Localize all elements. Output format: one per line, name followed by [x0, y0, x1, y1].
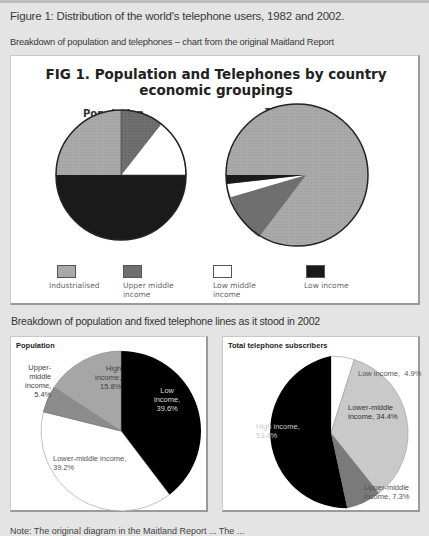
legend-label: income	[213, 290, 256, 299]
legend-label: Low income	[304, 281, 349, 290]
legend-swatch-low-middle	[213, 265, 232, 278]
label-upper-middle: Upper-middle income, 7.3%	[364, 483, 409, 501]
telephone-subscribers-2002-panel: Total telephone subscribers Low income, …	[222, 336, 420, 512]
label-lower-middle: Lower-middle income, 39.2%	[53, 454, 126, 472]
footnote-truncated: Note: The original diagram in the Maitla…	[10, 526, 244, 536]
legend-industrialised: Industrialised	[49, 265, 100, 290]
maitland-chart-panel: FIG 1. Population and Telephones by coun…	[10, 55, 420, 305]
label-high-income: High income, 53.4%	[256, 422, 300, 440]
top-border	[0, 0, 429, 3]
legend-label: income	[123, 290, 174, 299]
legend-low-middle: Low middle income	[213, 265, 256, 299]
population-pie-1982	[56, 110, 186, 240]
slice-industrialised	[56, 110, 121, 175]
legend-swatch-industrialised	[57, 265, 76, 278]
slice-low-income	[56, 175, 186, 240]
section2-title: Breakdown of population and fixed teleph…	[11, 315, 320, 327]
figure-subtitle: Breakdown of population and telephones –…	[10, 36, 334, 47]
label-upper-middle: Upper- middle income, 5.4%	[25, 363, 51, 399]
label-low-income: Low income, 39.6%	[154, 386, 180, 413]
label-lower-middle: Lower-middle income, 34.4%	[348, 403, 398, 421]
legend-swatch-upper-middle	[123, 265, 142, 278]
label-high-income: High income, 15.8%	[95, 364, 121, 391]
legend-upper-middle: Upper middle income	[123, 265, 174, 299]
telephones-pie-1982	[226, 104, 368, 246]
population-2002-panel: Population Upper- middle income, 5.4% Hi…	[10, 336, 208, 512]
legend-label: Upper middle	[123, 281, 174, 290]
legend-swatch-low-income	[306, 265, 325, 278]
label-low-income: Low income, 4.9%	[358, 351, 421, 396]
legend-low-income: Low income	[304, 265, 349, 290]
legend-label: Industrialised	[49, 281, 100, 290]
legend-label: Low middle	[213, 281, 256, 290]
figure-title: Figure 1: Distribution of the world's te…	[10, 10, 344, 22]
